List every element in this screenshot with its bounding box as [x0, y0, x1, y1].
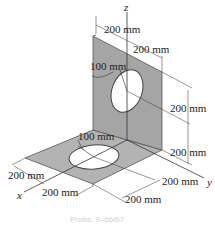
dim-top-left: 200 mm	[104, 24, 140, 35]
dim-bottom-y: 200 mm	[125, 194, 161, 205]
dim-vertical-hole-radius: 100 mm	[90, 61, 126, 72]
dim-right-lower: 200 mm	[170, 147, 206, 158]
dim-horizontal-hole-radius: 100 mm	[78, 131, 114, 142]
dim-left-x: 200 mm	[8, 170, 44, 181]
z-axis-label: z	[124, 2, 128, 13]
figure-caption: Probs. 9–66/67	[70, 215, 124, 224]
dim-right-upper: 200 mm	[170, 103, 206, 114]
dim-top-right: 200 mm	[133, 44, 169, 55]
x-axis-label: x	[17, 190, 22, 201]
y-axis-label: y	[207, 177, 212, 188]
dim-bottom-x: 200 mm	[42, 187, 78, 198]
dim-right-y: 200 mm	[162, 176, 198, 187]
diagram-canvas: z y x 200 mm 200 mm 100 mm 200 mm 200 mm…	[0, 0, 215, 228]
